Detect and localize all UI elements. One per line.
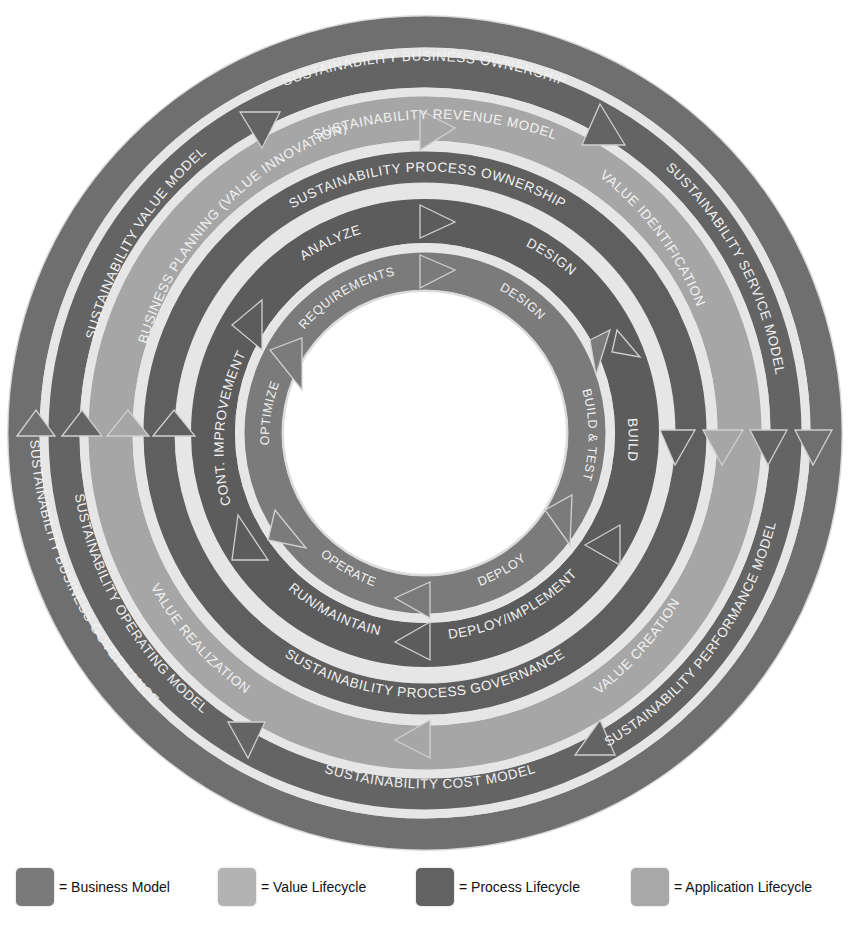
legend-item-process-lifecycle: = Process Lifecycle — [416, 868, 580, 906]
legend-label: = Application Lifecycle — [674, 879, 812, 895]
business-model-swatch — [16, 868, 54, 906]
legend-item-application-lifecycle: = Application Lifecycle — [631, 868, 812, 906]
application-lifecycle-swatch — [631, 868, 669, 906]
sustainability-lifecycle-diagram: SUSTAINABILITY BUSINESS OWNERSHIP SUSTAI… — [0, 0, 850, 860]
value-lifecycle-swatch — [218, 868, 256, 906]
legend-label: = Process Lifecycle — [459, 879, 580, 895]
legend-label: = Business Model — [59, 879, 170, 895]
label-build: BUILD — [625, 418, 641, 463]
legend-label: = Value Lifecycle — [261, 879, 366, 895]
process-lifecycle-swatch — [416, 868, 454, 906]
legend-item-business-model: = Business Model — [16, 868, 170, 906]
legend: = Business Model = Value Lifecycle = Pro… — [0, 864, 850, 914]
legend-item-value-lifecycle: = Value Lifecycle — [218, 868, 366, 906]
